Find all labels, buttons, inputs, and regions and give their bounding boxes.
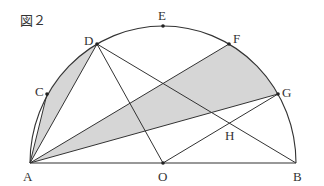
label-e: E xyxy=(158,8,166,23)
semicircle-diagram: A B O C D E F G H xyxy=(0,0,324,186)
label-h: H xyxy=(225,128,234,143)
point-g xyxy=(276,92,280,96)
label-o: O xyxy=(158,169,167,184)
point-o xyxy=(161,161,165,165)
figure-title: 図２ xyxy=(20,10,46,29)
point-e xyxy=(161,24,165,28)
point-d xyxy=(95,42,99,46)
label-d: D xyxy=(84,33,93,48)
label-b: B xyxy=(293,169,302,184)
segment-db xyxy=(97,44,296,163)
point-f xyxy=(227,42,231,46)
point-c xyxy=(45,92,49,96)
label-a: A xyxy=(23,169,33,184)
shaded-region-afg xyxy=(30,44,278,163)
label-f: F xyxy=(233,31,240,46)
geometry-figure: 図２ A B O C D E F G H xyxy=(0,0,324,186)
label-g: G xyxy=(282,85,291,100)
label-c: C xyxy=(35,84,44,99)
